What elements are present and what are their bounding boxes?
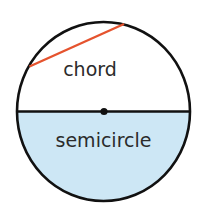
center-point bbox=[100, 108, 107, 115]
chord-label: chord bbox=[63, 58, 117, 80]
circle-diagram: chord semicircle bbox=[0, 0, 200, 208]
semicircle-label: semicircle bbox=[56, 129, 152, 151]
semicircle-region bbox=[17, 112, 190, 202]
